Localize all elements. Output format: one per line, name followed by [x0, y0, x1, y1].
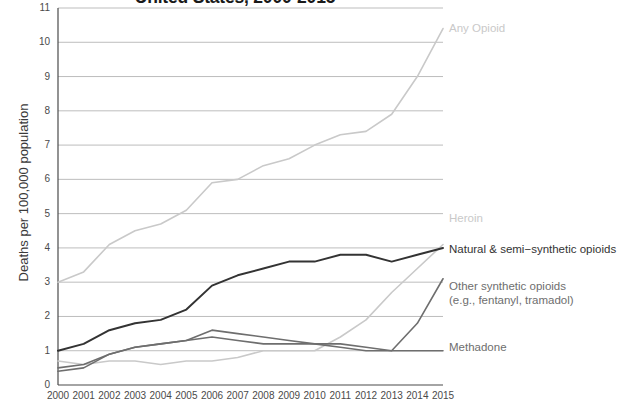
- y-tick-label: 10: [30, 36, 50, 47]
- series-label-other-synthetic-opioids-line2: (e.g., fentanyl, tramadol): [449, 294, 574, 308]
- y-tick-label: 7: [30, 139, 50, 150]
- series-label-methadone: Methadone: [449, 341, 507, 355]
- y-tick-label: 1: [30, 345, 50, 356]
- opioid-overdose-death-rate-chart: United States, 2000-2015 Deaths per 100,…: [0, 0, 633, 403]
- x-tick-label: 2015: [427, 390, 459, 401]
- series-line: [58, 244, 443, 364]
- series-line: [58, 279, 443, 372]
- y-tick-label: 6: [30, 173, 50, 184]
- y-tick-label: 9: [30, 71, 50, 82]
- series-label-other-synthetic-opioids: Other synthetic opioids (e.g., fentanyl,…: [449, 280, 574, 307]
- series-line: [58, 29, 443, 283]
- series-label-other-synthetic-opioids-line1: Other synthetic opioids: [449, 280, 574, 294]
- y-tick-label: 0: [30, 379, 50, 390]
- y-tick-label: 8: [30, 105, 50, 116]
- y-tick-label: 4: [30, 242, 50, 253]
- series-lines: [58, 29, 443, 372]
- y-tick-label: 2: [30, 310, 50, 321]
- y-tick-label: 5: [30, 208, 50, 219]
- series-label-any-opioid: Any Opioid: [449, 22, 505, 36]
- y-tick-label: 11: [30, 2, 50, 13]
- y-tick-label: 3: [30, 276, 50, 287]
- plot-area: [0, 0, 633, 403]
- series-label-heroin: Heroin: [449, 212, 483, 226]
- series-line: [58, 337, 443, 368]
- series-label-natural-semi-synthetic-opioids: Natural & semi−synthetic opioids: [449, 243, 616, 257]
